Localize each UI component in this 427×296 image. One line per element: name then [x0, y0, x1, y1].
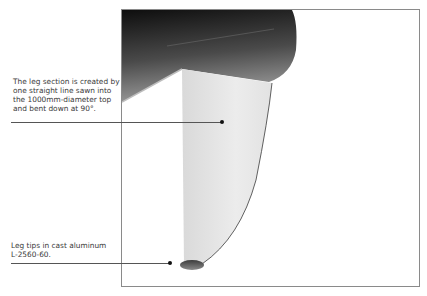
callout-leg-tip-text: Leg tips in cast aluminum L-2560-60. [11, 241, 121, 259]
callout-leg-section-dot [220, 120, 224, 124]
callout-leg-section-text: The leg section is created by one straig… [13, 77, 123, 113]
callout-leg-tip-dot [168, 261, 172, 265]
leg-tip [180, 260, 204, 270]
figure-frame [121, 9, 420, 287]
callout-leg-section-leader [11, 122, 222, 123]
table-illustration [122, 10, 420, 287]
callout-leg-tip-leader [11, 263, 170, 264]
